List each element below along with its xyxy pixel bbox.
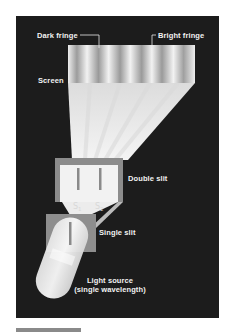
caption-bar (16, 328, 81, 332)
label-double-slit: Double slit (128, 174, 167, 183)
label-bright-fringe: Bright fringe (158, 31, 204, 40)
label-light-source-line2: (single wavelength) (70, 285, 150, 294)
label-light-source-line1: Light source (70, 276, 150, 285)
light-fan (68, 83, 195, 160)
screen (68, 45, 195, 83)
double-slit (55, 158, 123, 202)
slit-s2 (99, 168, 102, 190)
single-slit-opening (69, 222, 72, 245)
label-s2: S2 (95, 202, 104, 212)
label-s1: S1 (73, 202, 82, 212)
slit-s1 (77, 168, 80, 190)
label-screen: Screen (38, 76, 64, 85)
label-light-source: Light source (single wavelength) (70, 276, 150, 294)
label-single-slit: Single slit (99, 228, 136, 237)
label-dark-fringe: Dark fringe (37, 31, 78, 40)
